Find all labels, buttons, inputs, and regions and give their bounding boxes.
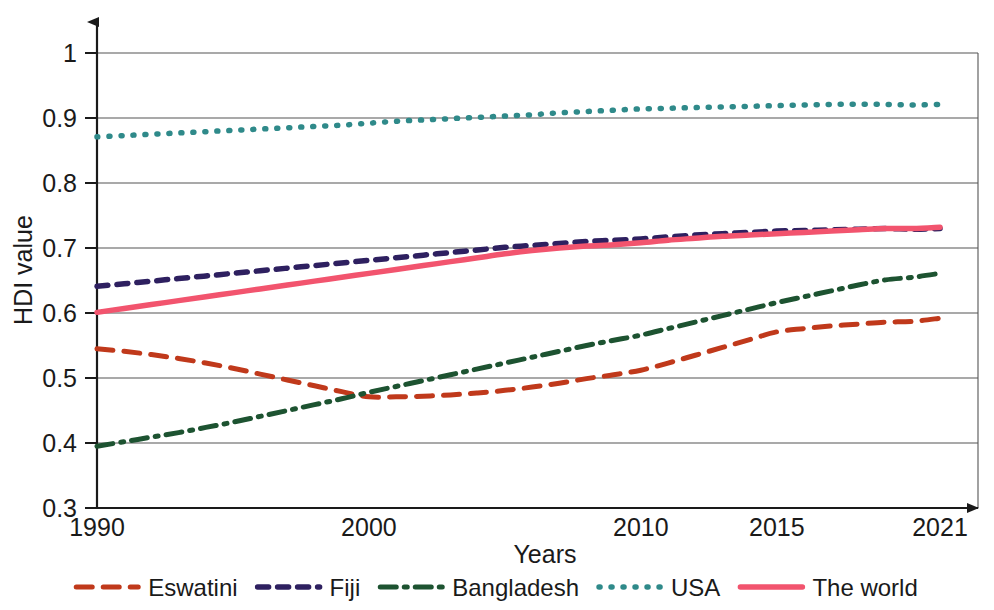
x-tick-label: 2010 (613, 513, 669, 541)
series-line-the-world (97, 227, 940, 312)
x-tick-label: 1990 (69, 513, 125, 541)
y-tick-label: 0.4 (42, 429, 77, 457)
x-tick-labels: 19902000201020152021 (69, 513, 968, 541)
x-tick-label: 2000 (341, 513, 397, 541)
legend-label-the-world[interactable]: The world (812, 574, 917, 601)
series-group (97, 104, 940, 446)
y-tick-label: 0.5 (42, 364, 77, 392)
legend-label-fiji[interactable]: Fiji (330, 574, 361, 601)
hdi-line-chart: 0.30.40.50.60.70.80.91 19902000201020152… (0, 0, 994, 610)
legend-label-usa[interactable]: USA (671, 574, 720, 601)
chart-legend: EswatiniFijiBangladeshUSAThe world (76, 574, 918, 601)
y-tick-label: 0.6 (42, 299, 77, 327)
x-tick-label: 2015 (749, 513, 805, 541)
series-line-usa (97, 104, 940, 137)
x-axis-title: Years (513, 540, 576, 568)
x-tick-label: 2021 (912, 513, 968, 541)
y-tick-label: 0.9 (42, 104, 77, 132)
y-tick-marks (85, 53, 97, 508)
chart-canvas: 0.30.40.50.60.70.80.91 19902000201020152… (0, 0, 994, 610)
y-tick-labels: 0.30.40.50.60.70.80.91 (42, 39, 77, 522)
gridlines (97, 53, 978, 508)
y-axis-title: HDI value (9, 215, 37, 325)
legend-label-bangladesh[interactable]: Bangladesh (452, 574, 579, 601)
legend-label-eswatini[interactable]: Eswatini (148, 574, 237, 601)
y-tick-label: 1 (63, 39, 77, 67)
y-tick-label: 0.7 (42, 234, 77, 262)
series-line-bangladesh (97, 273, 940, 446)
y-tick-label: 0.8 (42, 169, 77, 197)
series-line-fiji (97, 229, 940, 287)
